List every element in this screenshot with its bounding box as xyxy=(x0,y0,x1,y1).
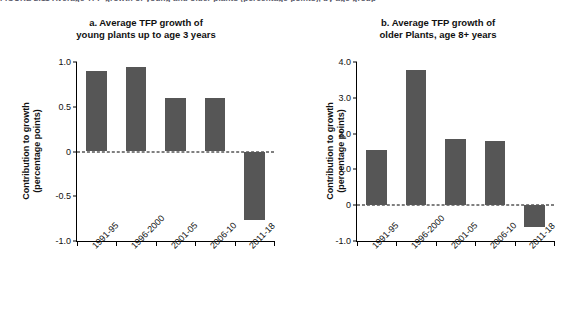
panel-a-title-line1: a. Average TFP growth of xyxy=(0,17,292,29)
bar-a-2006-10 xyxy=(205,98,225,152)
x-tick-mark-a-3 xyxy=(195,241,196,246)
x-tick-mark-a-0 xyxy=(77,241,78,246)
panel-a-plot-area: 1.00.50-0.5-1.01991-951996-20002001-0520… xyxy=(76,62,274,242)
panel-a-y-axis-label: Contribution to growth (percentage point… xyxy=(21,76,43,226)
y-tick-mark-a-3 xyxy=(73,196,77,197)
panel-b-y-axis-label-line1: Contribution to growth xyxy=(325,102,335,199)
x-tick-mark-a-4 xyxy=(235,241,236,246)
panel-b-title: b. Average TFP growth of older Plants, a… xyxy=(292,17,584,41)
x-tick-label-a-4: 2011-18 xyxy=(247,221,277,251)
x-tick-mark-b-5 xyxy=(554,241,555,246)
y-tick-mark-b-2 xyxy=(353,133,357,134)
x-tick-mark-b-1 xyxy=(396,241,397,246)
x-tick-label-a-0: 1991-95 xyxy=(90,220,120,250)
panel-a-title-line2: young plants up to age 3 years xyxy=(0,29,292,41)
x-tick-mark-a-1 xyxy=(116,241,117,246)
y-tick-mark-b-0 xyxy=(353,62,357,63)
panel-a-y-axis-label-line1: Contribution to growth xyxy=(21,102,31,199)
panel-a-y-axis-label-line2: (percentage points) xyxy=(32,109,42,193)
x-tick-mark-b-3 xyxy=(475,241,476,246)
bar-a-1996-2000 xyxy=(126,67,146,151)
y-tick-mark-b-1 xyxy=(353,97,357,98)
chart-panel-a: a. Average TFP growth of young plants up… xyxy=(0,0,292,310)
chart-panel-b: b. Average TFP growth of older Plants, a… xyxy=(292,0,584,310)
x-tick-mark-b-4 xyxy=(515,241,516,246)
bar-a-1991-95 xyxy=(86,71,106,152)
y-tick-mark-a-1 xyxy=(73,106,77,107)
panel-b-title-line1: b. Average TFP growth of xyxy=(292,17,584,29)
panel-b-title-line2: older Plants, age 8+ years xyxy=(292,29,584,41)
x-tick-label-b-0: 1991-95 xyxy=(370,220,400,250)
x-tick-mark-a-5 xyxy=(274,241,275,246)
y-tick-mark-a-0 xyxy=(73,62,77,63)
x-tick-label-b-1: 1996-2000 xyxy=(409,213,447,251)
bar-b-2001-05 xyxy=(445,139,465,205)
panel-a-title: a. Average TFP growth of young plants up… xyxy=(0,17,292,41)
x-tick-label-a-3: 2006-10 xyxy=(208,220,238,250)
x-tick-label-a-1: 1996-2000 xyxy=(129,213,167,251)
x-tick-mark-b-0 xyxy=(357,241,358,246)
bar-b-2006-10 xyxy=(485,141,505,205)
bar-a-2001-05 xyxy=(165,98,185,152)
figure-panels: a. Average TFP growth of young plants up… xyxy=(0,0,585,310)
panel-b-plot-area: 4.03.02.01.00-1.01991-951996-20002001-05… xyxy=(356,62,554,242)
y-tick-mark-b-3 xyxy=(353,169,357,170)
bar-b-1991-95 xyxy=(366,150,386,205)
bar-b-1996-2000 xyxy=(406,70,426,205)
x-tick-mark-b-2 xyxy=(436,241,437,246)
bar-a-2011-18 xyxy=(244,152,264,221)
x-tick-label-a-2: 2001-05 xyxy=(169,220,199,250)
panel-b-y-axis-label-line2: (percentage points) xyxy=(336,109,346,193)
x-tick-label-b-3: 2006-10 xyxy=(488,220,518,250)
x-tick-mark-a-2 xyxy=(156,241,157,246)
x-tick-label-b-2: 2001-05 xyxy=(449,220,479,250)
bar-b-2011-18 xyxy=(524,205,544,226)
